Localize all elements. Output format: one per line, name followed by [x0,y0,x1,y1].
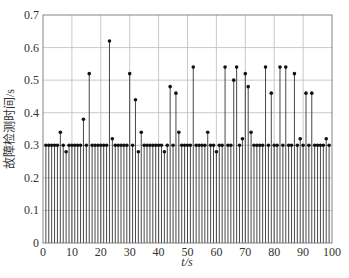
stem-point [44,143,48,243]
stem-point [324,137,328,243]
stem-point [313,143,317,243]
stem-point [278,65,282,243]
stem-marker [79,143,83,147]
stem-marker [108,39,112,43]
stem-point [215,150,219,243]
stem-marker [238,143,242,147]
stem-chart: 00.10.20.30.40.50.60.7 01020304050607080… [0,0,349,278]
stem-point [116,143,120,243]
stem-marker [322,143,326,147]
stem-point [206,130,210,243]
stem-point [113,143,117,243]
stem-marker [223,65,227,69]
stem-point [322,143,326,243]
stem-point [235,65,239,243]
stem-point [50,143,54,243]
stem-marker [281,143,285,147]
stem-marker [189,143,193,147]
stem-point [131,143,135,243]
stem-marker [131,143,135,147]
stem-point [255,143,259,243]
stem-point [293,72,297,243]
stem-point [241,137,245,243]
y-tick-label: 0.6 [24,41,39,55]
stem-marker [307,143,311,147]
stem-point [87,72,91,243]
stem-point [102,143,106,243]
stem-point [194,143,198,243]
stem-point [212,143,216,243]
stem-marker [301,143,305,147]
stem-point [258,143,262,243]
stem-point [128,72,132,243]
stem-point [327,143,331,243]
stem-marker [64,150,68,154]
stem-point [275,143,279,243]
stem-point [301,143,305,243]
stem-point [307,143,311,243]
stem-point [47,143,51,243]
stem-point [232,78,236,243]
stem-marker [261,143,265,147]
stem-point [165,143,169,243]
stem-marker [270,91,274,95]
stem-marker [61,143,65,147]
stem-marker [232,78,236,82]
stem-marker [212,143,216,147]
x-tick-label: 100 [323,245,341,259]
stem-point [163,150,167,243]
stem-marker [160,143,164,147]
stem-point [151,143,155,243]
stem-point [238,143,242,243]
stem-point [148,143,152,243]
stem-point [70,143,74,243]
x-tick-label: 30 [124,245,136,259]
stem-point [191,65,195,243]
stem-marker [284,65,288,69]
y-tick-label: 0.2 [24,171,39,185]
stem-point [105,143,109,243]
stem-point [209,143,213,243]
stem-marker [235,65,239,69]
stem-point [264,65,268,243]
x-tick-label: 80 [268,245,280,259]
stem-point [220,143,224,243]
stem-marker [298,137,302,141]
stem-point [270,91,274,243]
x-tick-label: 70 [239,245,251,259]
y-tick-label: 0.4 [24,106,39,120]
x-tick-label: 60 [210,245,222,259]
stem-marker [264,65,268,69]
stem-marker [139,130,143,134]
stem-point [296,143,300,243]
x-tick-label: 0 [40,245,46,259]
stem-marker [220,143,224,147]
stem-marker [304,91,308,95]
stem-point [226,143,230,243]
stem-marker [85,143,89,147]
stem-point [203,143,207,243]
stem-point [229,143,233,243]
x-axis-label: t/s [181,255,193,269]
stem-point [246,85,250,243]
stem-marker [137,150,141,154]
stem-point [180,143,184,243]
y-tick-label: 0 [33,236,39,250]
stem-point [157,143,161,243]
stem-point [310,91,314,243]
stem-point [249,130,253,243]
stem-marker [327,143,331,147]
stem-marker [249,130,253,134]
stem-point [174,91,178,243]
stem-point [142,143,146,243]
stem-point [125,143,129,243]
stem-point [160,143,164,243]
stem-point [82,117,86,243]
stem-point [111,137,115,243]
stem-marker [215,150,219,154]
stem-marker [296,143,300,147]
stem-marker [241,137,245,141]
stem-point [197,143,201,243]
stem-marker [324,137,328,141]
stem-point [96,143,100,243]
